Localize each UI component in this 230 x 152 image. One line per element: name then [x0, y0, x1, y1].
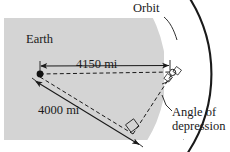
distance-4150-label: 4150 mi: [76, 58, 117, 72]
angle-of-depression-label-line1: Angle of: [172, 106, 225, 120]
angle-of-depression-label-line2: depression: [172, 120, 225, 134]
earth-label: Earth: [26, 33, 53, 47]
orbit-angle-diagram: Orbit Earth 4150 mi 4000 mi Angle of dep…: [0, 0, 230, 152]
orbit-label: Orbit: [133, 2, 159, 16]
angle-of-depression-label: Angle of depression: [172, 106, 225, 133]
distance-4000-label: 4000 mi: [38, 104, 79, 118]
earth-center-point: [37, 71, 44, 78]
